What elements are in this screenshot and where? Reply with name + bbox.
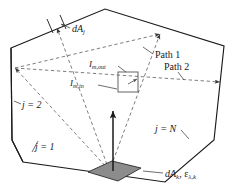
label-I-m-out-subscript: m,out [92,64,106,70]
leader-path1 [143,47,153,54]
enclosure-boundary [11,9,224,182]
label-dA-j-subscript: j [83,28,85,35]
intensity-out-arrow [128,79,137,84]
label-j-equals-N: j = N [155,124,176,134]
ray-plate-to-dAj [57,28,109,170]
enclosure-radiation-figure: dAj Im,out Im,in Path 1 Path 2 j = 2 j =… [0,0,236,193]
ray-path1 [109,34,160,172]
control-volume-square [118,72,138,92]
ray-path1-upper-chord [15,34,160,68]
label-path-2: Path 2 [164,62,189,72]
leader-jN [181,130,189,139]
label-dA-j: dAj [72,24,85,34]
label-I-m-out: Im,out [89,60,106,69]
tick-mark-left [47,19,53,33]
wall-segment-j2 [11,48,12,140]
leader-Imout [118,66,126,72]
leader-dAk [143,171,163,173]
leader-Imin [98,85,117,89]
label-dA-k-subscript: k [176,173,179,180]
label-dA-k-epsilon: dAk, ελ,k [165,169,196,179]
label-path-1: Path 1 [155,50,180,60]
label-epsilon-subscript: λ,k [188,173,196,180]
label-dA-j-symbol: dA [72,23,83,34]
label-j-equals-1: j = 1 [35,142,55,152]
label-I-m-in: Im,in [70,79,84,88]
wall-segment-j1 [12,140,23,162]
ray-plate-to-left-wall [15,68,109,170]
label-j-equals-2: j = 2 [22,100,42,110]
label-I-m-in-subscript: m,in [73,83,84,89]
label-dA-k-symbol: dA [165,168,176,179]
diagram-canvas [0,0,236,193]
leader-j2 [14,101,21,104]
